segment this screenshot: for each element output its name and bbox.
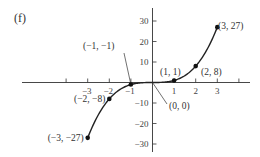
- x-tick-label: 1: [172, 86, 177, 96]
- x-tick-label: 3: [215, 86, 220, 96]
- point-label: (2, 8): [201, 67, 222, 78]
- point-label: (−2, −8): [74, 94, 105, 105]
- y-tick-label: −10: [134, 98, 149, 108]
- data-point: [172, 78, 177, 83]
- data-point: [193, 64, 198, 69]
- data-point: [107, 97, 112, 102]
- point-label: (3, 27): [218, 21, 243, 32]
- y-tick-label: −20: [134, 119, 149, 129]
- leader-line: [153, 83, 168, 105]
- cubic-function-chart: (f) −3−2−1123302010−10−20−30 (−3, −27)(−…: [0, 0, 260, 157]
- x-tick-label: 2: [193, 86, 198, 96]
- point-label: (−1, −1): [83, 41, 114, 52]
- x-tick-label: −1: [125, 86, 135, 96]
- point-label: (−3, −27): [48, 133, 84, 144]
- panel-label: (f): [14, 11, 26, 25]
- leader-line: [124, 53, 131, 85]
- y-tick-label: 10: [140, 57, 150, 67]
- data-point: [129, 82, 134, 87]
- y-tick-label: 20: [140, 37, 150, 47]
- data-point: [85, 136, 90, 141]
- y-tick-label: 30: [140, 16, 150, 26]
- point-label: (0, 0): [169, 101, 190, 112]
- point-label: (1, 1): [160, 67, 181, 78]
- y-tick-label: −30: [134, 139, 149, 149]
